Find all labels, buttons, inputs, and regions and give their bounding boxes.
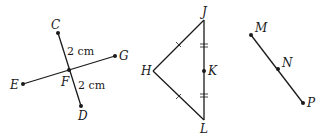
label-n: N xyxy=(281,56,293,70)
point-p xyxy=(301,101,305,105)
figure-segment-mnp: M N P xyxy=(249,21,316,110)
side-hl xyxy=(153,71,204,120)
label-f: F xyxy=(60,75,70,89)
label-m: M xyxy=(254,21,268,35)
label-p: P xyxy=(306,96,316,110)
label-k: K xyxy=(207,64,218,78)
geometry-diagram: C D E F G 2 cm 2 cm H J K L M N P xyxy=(0,0,324,138)
label-h: H xyxy=(140,64,152,78)
point-g xyxy=(113,54,117,58)
side-hj xyxy=(153,20,204,71)
point-n xyxy=(276,67,280,71)
point-d xyxy=(79,104,83,108)
label-g: G xyxy=(119,49,129,63)
figure-triangle: H J K L xyxy=(140,5,218,136)
measure-cf: 2 cm xyxy=(67,45,95,58)
point-f xyxy=(67,68,71,72)
figure-intersecting-segments: C D E F G 2 cm 2 cm xyxy=(9,18,129,123)
label-c: C xyxy=(51,18,60,32)
point-k xyxy=(202,69,206,73)
label-l: L xyxy=(199,122,208,136)
point-e xyxy=(21,82,25,86)
label-j: J xyxy=(199,5,208,19)
label-e: E xyxy=(9,78,19,92)
measure-fd: 2 cm xyxy=(78,79,106,92)
label-d: D xyxy=(77,109,88,123)
point-m xyxy=(249,33,253,37)
